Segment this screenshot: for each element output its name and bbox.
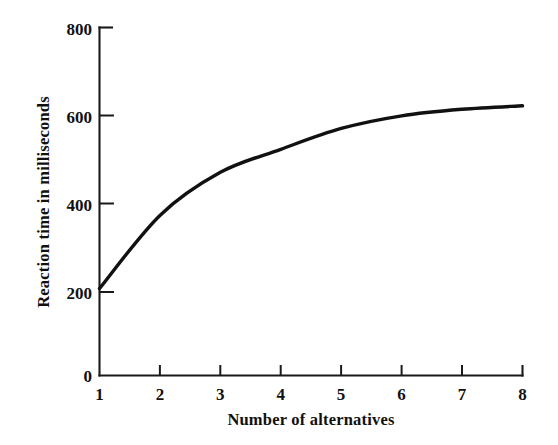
x-tick-label-1: 1 bbox=[95, 385, 104, 404]
reaction-time-line-chart: 0 200 400 600 800 1 2 3 4 5 6 7 8 Number… bbox=[0, 0, 558, 445]
y-tick-label-0: 0 bbox=[84, 367, 93, 386]
x-tick-label-4: 4 bbox=[276, 385, 285, 404]
y-tick-label-800: 800 bbox=[67, 20, 93, 39]
y-tick-label-600: 600 bbox=[67, 108, 93, 127]
x-tick-label-7: 7 bbox=[458, 385, 467, 404]
x-tick-label-2: 2 bbox=[156, 385, 165, 404]
chart-figure: 0 200 400 600 800 1 2 3 4 5 6 7 8 Number… bbox=[0, 0, 558, 445]
x-tick-label-5: 5 bbox=[337, 385, 346, 404]
x-tick-label-8: 8 bbox=[518, 385, 527, 404]
y-axis-title: Reaction time in milliseconds bbox=[34, 96, 53, 308]
y-tick-label-400: 400 bbox=[67, 196, 93, 215]
x-tick-label-6: 6 bbox=[397, 385, 406, 404]
y-tick-label-200: 200 bbox=[67, 284, 93, 303]
x-axis-title: Number of alternatives bbox=[227, 410, 395, 429]
x-tick-label-3: 3 bbox=[216, 385, 225, 404]
